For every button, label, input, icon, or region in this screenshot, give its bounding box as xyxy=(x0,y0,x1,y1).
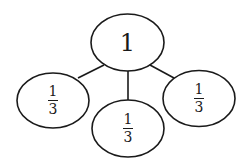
middle-numerator: 1 xyxy=(124,111,133,127)
root-label: 1 xyxy=(120,29,135,57)
right-numerator: 1 xyxy=(195,81,204,97)
left-numerator: 1 xyxy=(49,83,58,99)
child-node-left: 1 3 xyxy=(17,73,89,128)
edge-root-left xyxy=(78,65,104,78)
middle-denominator: 3 xyxy=(124,129,133,145)
left-denominator: 3 xyxy=(49,101,58,117)
child-node-right: 1 3 xyxy=(163,71,235,127)
number-bond-diagram: 1 1 3 1 3 1 3 xyxy=(0,0,247,167)
edge-root-right xyxy=(150,65,174,78)
right-denominator: 3 xyxy=(195,99,204,115)
child-node-middle: 1 3 xyxy=(92,100,164,157)
root-node: 1 xyxy=(91,14,164,71)
